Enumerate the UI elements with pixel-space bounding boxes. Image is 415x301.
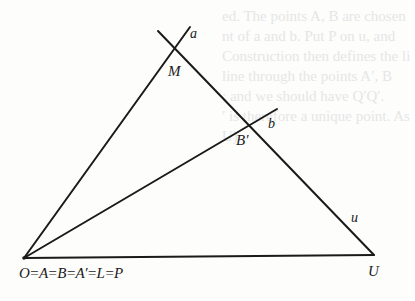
label-point-M: M: [168, 64, 181, 79]
line-a: [24, 27, 190, 258]
label-origin-coincident-points: O=A=B=A′=L=P: [19, 266, 123, 281]
base-line-OU: [24, 255, 374, 258]
label-point-U: U: [368, 264, 379, 279]
label-line-u: u: [351, 211, 358, 225]
label-point-B-prime: B′: [236, 133, 248, 148]
line-u: [158, 31, 374, 255]
vertex-O: [22, 256, 26, 260]
label-line-b: b: [268, 117, 275, 131]
label-line-a: a: [190, 27, 197, 41]
